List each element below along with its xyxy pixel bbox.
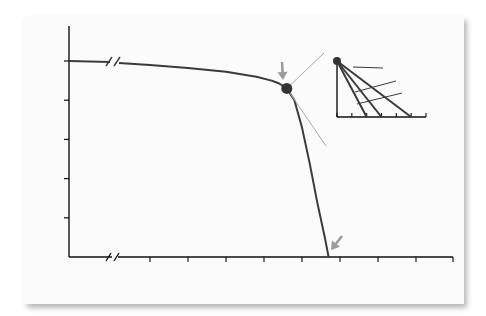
- death-age-arrow-icon: [331, 236, 342, 250]
- onset-marker: [281, 83, 292, 94]
- inset-origin-marker: [333, 57, 341, 65]
- survival-chart: [0, 0, 486, 316]
- curve-break-mark: [114, 57, 120, 66]
- arrow-shaft: [282, 62, 283, 72]
- zoom-guide-line: [287, 88, 326, 146]
- arrow-shaft: [336, 236, 342, 244]
- survival-curve: [119, 63, 329, 257]
- onset-arrow-icon: [278, 62, 288, 80]
- zoom-guide-line: [287, 53, 324, 88]
- arrow-head: [278, 72, 288, 80]
- inset-line-failure: [337, 61, 367, 117]
- inset-leader-line: [353, 67, 383, 68]
- survival-curve-segment: [69, 61, 110, 62]
